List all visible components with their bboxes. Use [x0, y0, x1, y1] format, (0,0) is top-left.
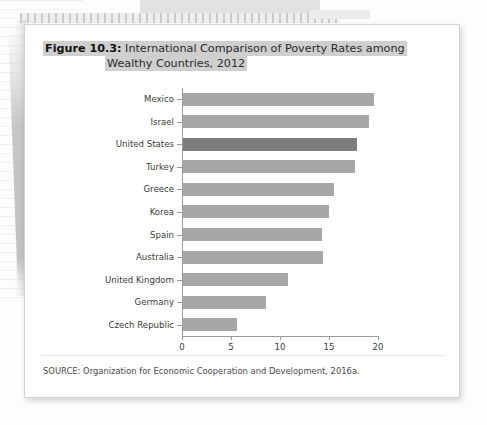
x-axis-tick-mark — [280, 336, 281, 340]
y-axis-tick — [177, 99, 182, 100]
figure-title-text-1: International Comparison of Poverty Rate… — [125, 42, 405, 55]
bar-korea — [183, 205, 329, 218]
category-label: Australia — [136, 250, 174, 264]
bar-row: Australia — [182, 246, 378, 269]
x-axis-tick-label: 20 — [373, 342, 384, 352]
category-label: Korea — [150, 205, 174, 219]
x-axis-tick-label: 0 — [179, 342, 184, 352]
y-axis-tick — [177, 257, 182, 258]
figure-title-line-1: Figure 10.3: International Comparison of… — [43, 41, 433, 56]
bar-row: Korea — [182, 201, 378, 224]
y-axis-tick — [177, 144, 182, 145]
bar-chart: MexicoIsraelUnited StatesTurkeyGreeceKor… — [25, 80, 459, 355]
figure-title-line-2: Wealthy Countries, 2012 — [43, 56, 433, 71]
plot-area: MexicoIsraelUnited StatesTurkeyGreeceKor… — [182, 88, 378, 336]
y-axis-tick — [177, 189, 182, 190]
bar-spain — [183, 228, 322, 241]
bar-row: Greece — [182, 178, 378, 201]
bar-australia — [183, 251, 323, 264]
source-note: SOURCE: Organization for Economic Cooper… — [43, 366, 360, 376]
category-label: Spain — [150, 228, 174, 242]
category-label: Greece — [143, 182, 174, 196]
figure-title-block: Figure 10.3: International Comparison of… — [43, 41, 433, 71]
bar-row: Turkey — [182, 156, 378, 179]
category-label: Mexico — [144, 92, 174, 106]
x-axis-tick-mark — [378, 336, 379, 340]
category-label: United States — [116, 137, 174, 151]
bar-united-states — [183, 138, 357, 151]
bar-rows: MexicoIsraelUnited StatesTurkeyGreeceKor… — [182, 88, 378, 336]
y-axis-tick — [177, 212, 182, 213]
bar-row: Israel — [182, 111, 378, 134]
binding-perforation-strip — [20, 13, 340, 23]
category-label: Germany — [135, 295, 175, 309]
bar-mexico — [183, 93, 374, 106]
y-axis-tick — [177, 167, 182, 168]
x-axis-tick-label: 10 — [275, 342, 286, 352]
bar-row: Spain — [182, 223, 378, 246]
figure-number-label: Figure 10.3: — [45, 42, 122, 55]
category-label: United Kingdom — [105, 273, 174, 287]
y-axis-tick — [177, 280, 182, 281]
bar-row: United States — [182, 133, 378, 156]
bar-greece — [183, 183, 334, 196]
bar-czech-republic — [183, 318, 237, 331]
category-label: Turkey — [146, 160, 174, 174]
y-axis-tick — [177, 302, 182, 303]
category-label: Israel — [151, 115, 175, 129]
bar-row: Czech Republic — [182, 313, 378, 336]
y-axis-tick — [177, 235, 182, 236]
source-divider — [41, 355, 443, 356]
bar-israel — [183, 115, 369, 128]
category-label: Czech Republic — [109, 318, 174, 332]
scanned-page-background: Figure 10.3: International Comparison of… — [0, 0, 487, 425]
y-axis-tick — [177, 325, 182, 326]
bar-row: Germany — [182, 291, 378, 314]
x-axis-tick-mark — [182, 336, 183, 340]
binding-strip-right — [310, 10, 370, 19]
figure-title-text-2: Wealthy Countries, 2012 — [107, 57, 245, 70]
x-axis-tick-label: 15 — [324, 342, 335, 352]
bar-turkey — [183, 160, 355, 173]
figure-page: Figure 10.3: International Comparison of… — [24, 24, 460, 398]
bar-row: United Kingdom — [182, 268, 378, 291]
binding-strip-upper — [140, 0, 320, 14]
x-axis-tick-mark — [231, 336, 232, 340]
y-axis-tick — [177, 122, 182, 123]
x-axis-tick-label: 5 — [228, 342, 233, 352]
bar-germany — [183, 296, 266, 309]
bar-row: Mexico — [182, 88, 378, 111]
x-axis-tick-mark — [329, 336, 330, 340]
bar-united-kingdom — [183, 273, 288, 286]
